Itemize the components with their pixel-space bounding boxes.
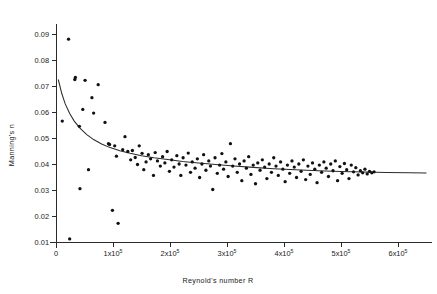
data-point — [325, 167, 328, 170]
data-point — [350, 163, 353, 166]
data-point — [202, 153, 205, 156]
data-point — [213, 156, 216, 159]
data-point — [142, 168, 145, 171]
data-point — [354, 166, 357, 169]
data-point — [236, 171, 239, 174]
y-tick-label: 0.03 — [35, 186, 49, 195]
data-point — [229, 142, 232, 145]
data-point — [92, 111, 95, 114]
data-point — [288, 172, 291, 175]
y-tick-label: 0.04 — [35, 160, 49, 169]
data-point — [144, 160, 147, 163]
data-point — [254, 182, 257, 185]
data-point — [136, 163, 139, 166]
data-point — [249, 173, 252, 176]
data-point — [163, 161, 166, 164]
data-point — [313, 168, 316, 171]
data-point — [61, 119, 64, 122]
data-point — [233, 157, 236, 160]
data-point — [161, 155, 164, 158]
data-point — [263, 165, 266, 168]
data-point — [336, 179, 339, 182]
data-point — [216, 172, 219, 175]
data-point — [209, 164, 212, 167]
data-point — [175, 154, 178, 157]
data-point — [261, 158, 264, 161]
data-point — [218, 163, 221, 166]
data-point — [111, 209, 114, 212]
x-tick-label: 0 — [54, 249, 58, 258]
data-point — [159, 164, 162, 167]
data-point — [140, 152, 143, 155]
data-point — [129, 158, 132, 161]
data-point — [207, 159, 210, 162]
data-point — [115, 155, 118, 158]
data-point — [193, 167, 196, 170]
data-point — [320, 171, 323, 174]
data-point — [309, 173, 312, 176]
data-point — [200, 162, 203, 165]
data-point — [168, 170, 171, 173]
data-point — [265, 177, 268, 180]
data-point — [126, 150, 129, 153]
data-point — [322, 160, 325, 163]
data-point — [268, 162, 271, 165]
data-point — [327, 175, 330, 178]
data-point — [187, 151, 190, 154]
data-point — [134, 156, 137, 159]
data-point — [252, 163, 255, 166]
data-point — [181, 156, 184, 159]
data-point — [297, 162, 300, 165]
data-point — [177, 162, 180, 165]
data-point — [74, 76, 77, 79]
data-point — [352, 170, 355, 173]
data-point — [170, 158, 173, 161]
data-point — [345, 168, 348, 171]
data-point — [295, 176, 298, 179]
data-point — [87, 168, 90, 171]
data-point — [270, 171, 273, 174]
data-point — [78, 125, 81, 128]
data-point — [299, 170, 302, 173]
data-point — [347, 177, 350, 180]
data-point — [220, 152, 223, 155]
data-point — [286, 163, 289, 166]
data-point — [331, 169, 334, 172]
data-point — [184, 163, 187, 166]
data-point — [338, 165, 341, 168]
data-point — [123, 135, 126, 138]
data-point — [290, 159, 293, 162]
manning-reynolds-scatter-chart: 0.010.020.030.040.050.060.070.080.09 01x… — [0, 0, 437, 294]
data-point — [283, 180, 286, 183]
data-point — [116, 222, 119, 225]
y-tick-label: 0.05 — [35, 134, 49, 143]
data-point — [121, 148, 124, 151]
data-point — [247, 155, 250, 158]
data-point — [198, 176, 201, 179]
data-point — [189, 171, 192, 174]
data-point — [226, 175, 229, 178]
y-axis-title: Manning's n — [7, 124, 16, 166]
data-point — [279, 160, 282, 163]
data-point — [274, 164, 277, 167]
data-point — [166, 150, 169, 153]
data-point — [131, 149, 134, 152]
data-point — [179, 174, 182, 177]
data-point — [224, 160, 227, 163]
data-point — [258, 169, 261, 172]
y-tick-label: 0.01 — [35, 238, 49, 247]
data-point — [147, 153, 150, 156]
data-point — [372, 170, 375, 173]
data-point — [306, 164, 309, 167]
data-point — [156, 159, 159, 162]
data-point — [329, 162, 332, 165]
data-point — [281, 168, 284, 171]
data-point — [108, 143, 111, 146]
data-point — [361, 171, 364, 174]
data-point — [318, 163, 321, 166]
data-point — [356, 173, 359, 176]
data-point — [277, 174, 280, 177]
data-point — [149, 157, 152, 160]
data-point — [315, 181, 318, 184]
data-point — [191, 160, 194, 163]
